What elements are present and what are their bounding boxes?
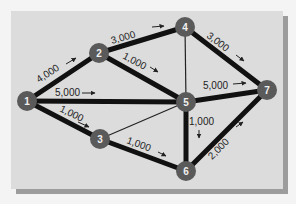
arrow-icon (233, 83, 246, 84)
node-4-label: 4 (182, 22, 188, 33)
edge-labels: 4,000 5,000 1,000 3,000 1,000 3,000 5,00… (34, 28, 232, 161)
arrow-icon (152, 26, 164, 27)
node-7-label: 7 (264, 85, 270, 96)
arrow-icon (66, 58, 76, 64)
arrow-icon (150, 67, 158, 72)
node-2: 2 (89, 43, 109, 63)
network-diagram: 4,000 5,000 1,000 3,000 1,000 3,000 5,00… (0, 0, 296, 204)
label-edge-1-5: 5,000 (55, 87, 80, 98)
node-6-label: 6 (183, 166, 189, 177)
node-6: 6 (176, 161, 196, 181)
node-5-label: 5 (183, 97, 189, 108)
node-4: 4 (175, 17, 195, 37)
node-3-label: 3 (97, 134, 103, 145)
node-1-label: 1 (24, 96, 30, 107)
edge-4-5 (185, 27, 186, 102)
edge-1-5 (27, 101, 186, 102)
node-7: 7 (257, 80, 277, 100)
label-edge-5-6: 1,000 (189, 116, 214, 127)
arrow-icon (158, 152, 166, 156)
label-edge-6-7: 2,000 (206, 136, 232, 162)
node-3: 3 (90, 129, 110, 149)
edge-3-5 (100, 102, 186, 139)
arrow-icon (236, 55, 244, 61)
node-5: 5 (176, 92, 196, 112)
node-2-label: 2 (96, 48, 102, 59)
label-edge-5-7: 5,000 (203, 80, 228, 91)
node-1: 1 (17, 91, 37, 111)
